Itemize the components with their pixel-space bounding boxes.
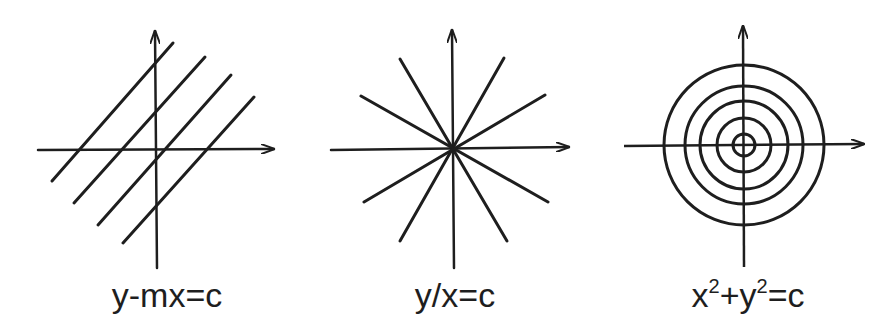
- label-radial-lines: y/x=c: [415, 276, 495, 315]
- parallel-line-2: [74, 57, 205, 203]
- y-axis: [743, 26, 744, 267]
- y-axis: [155, 31, 157, 268]
- parallel-line-4: [123, 97, 254, 243]
- panel-parallel-lines: [38, 31, 274, 268]
- label-x: x: [692, 276, 709, 314]
- label-plus: +: [720, 276, 740, 314]
- label-parallel-lines: y-mx=c: [112, 276, 223, 315]
- label-y-exponent: 2: [757, 275, 768, 297]
- label-x-exponent: 2: [709, 275, 720, 297]
- panel-radial-lines: [331, 30, 569, 268]
- label-concentric-circles: x2+y2=c: [692, 276, 805, 315]
- label-equals-c: =c: [768, 276, 805, 314]
- panel-concentric-circles: [624, 26, 864, 267]
- label-y: y: [740, 276, 757, 314]
